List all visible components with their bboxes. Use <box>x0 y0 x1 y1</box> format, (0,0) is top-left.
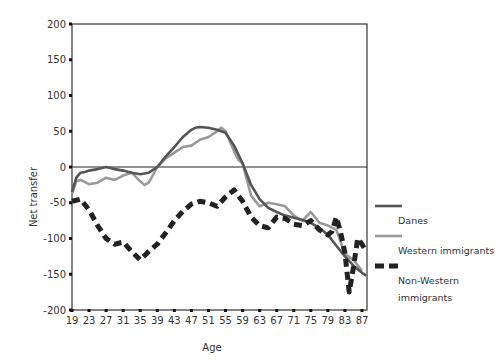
x-tick-mark <box>105 309 108 312</box>
y-tick-label: -100 <box>43 233 66 244</box>
y-tick-mark <box>69 130 72 133</box>
y-tick-label: -150 <box>43 269 66 280</box>
y-tick-label: -200 <box>43 305 66 316</box>
net-transfer-chart: 200150100500-50-100-150-200 192327313539… <box>0 0 501 363</box>
x-tick-mark <box>361 309 364 312</box>
x-tick-mark <box>190 309 193 312</box>
x-tick-label: 63 <box>253 315 266 326</box>
x-tick-mark <box>88 309 91 312</box>
x-tick-mark <box>156 309 159 312</box>
y-tick-label: 0 <box>60 162 66 173</box>
x-tick-label: 51 <box>202 315 215 326</box>
x-tick-label: 55 <box>219 315 232 326</box>
legend-label: Western immigrants <box>398 245 494 256</box>
y-tick-label: 200 <box>47 19 66 30</box>
y-axis-title: Net transfer <box>28 166 39 227</box>
x-tick-mark <box>122 309 125 312</box>
x-tick-mark <box>258 309 261 312</box>
legend-label: immigrants <box>398 292 452 303</box>
y-tick-mark <box>69 237 72 240</box>
x-tick-mark <box>139 309 142 312</box>
y-tick-label: 150 <box>47 54 66 65</box>
x-tick-mark <box>343 309 346 312</box>
x-tick-label: 71 <box>287 315 300 326</box>
x-tick-label: 19 <box>66 315 79 326</box>
x-tick-mark <box>241 309 244 312</box>
x-tick-label: 79 <box>322 315 335 326</box>
y-tick-mark <box>69 94 72 97</box>
x-tick-label: 39 <box>151 315 164 326</box>
x-tick-mark <box>224 309 227 312</box>
x-tick-mark <box>275 309 278 312</box>
x-tick-label: 83 <box>339 315 352 326</box>
legend-item: Western immigrants <box>375 236 494 256</box>
x-tick-label: 47 <box>185 315 198 326</box>
legend-item: Danes <box>375 206 428 226</box>
x-tick-label: 31 <box>117 315 130 326</box>
x-axis: 192327313539434751555963677175798387 <box>66 309 369 326</box>
legend: DanesWestern immigrantsNon-Westernimmigr… <box>375 206 494 303</box>
legend-label: Non-Western <box>398 275 459 286</box>
y-tick-mark <box>69 201 72 204</box>
y-tick-label: 50 <box>53 126 66 137</box>
legend-label: Danes <box>398 215 428 226</box>
y-tick-mark <box>69 58 72 61</box>
x-tick-mark <box>326 309 329 312</box>
series-western-immigrants <box>72 128 362 271</box>
y-tick-mark <box>69 23 72 26</box>
x-tick-mark <box>309 309 312 312</box>
x-axis-title: Age <box>202 342 221 353</box>
x-tick-label: 59 <box>236 315 249 326</box>
x-tick-label: 27 <box>100 315 113 326</box>
x-tick-label: 75 <box>304 315 317 326</box>
x-tick-label: 87 <box>356 315 369 326</box>
series-danes <box>72 127 366 276</box>
x-tick-mark <box>292 309 295 312</box>
y-tick-mark <box>69 273 72 276</box>
series-non-western-immigrants <box>72 190 366 292</box>
y-tick-label: 100 <box>47 90 66 101</box>
series-layer <box>72 127 366 292</box>
x-tick-label: 23 <box>83 315 96 326</box>
y-tick-mark <box>69 166 72 169</box>
y-tick-label: -50 <box>50 197 66 208</box>
x-tick-mark <box>71 309 74 312</box>
y-axis: 200150100500-50-100-150-200 <box>43 19 72 316</box>
x-tick-label: 35 <box>134 315 147 326</box>
x-tick-label: 67 <box>270 315 283 326</box>
legend-item: Non-Westernimmigrants <box>375 266 459 303</box>
x-tick-mark <box>207 309 210 312</box>
x-tick-label: 43 <box>168 315 181 326</box>
x-tick-mark <box>173 309 176 312</box>
